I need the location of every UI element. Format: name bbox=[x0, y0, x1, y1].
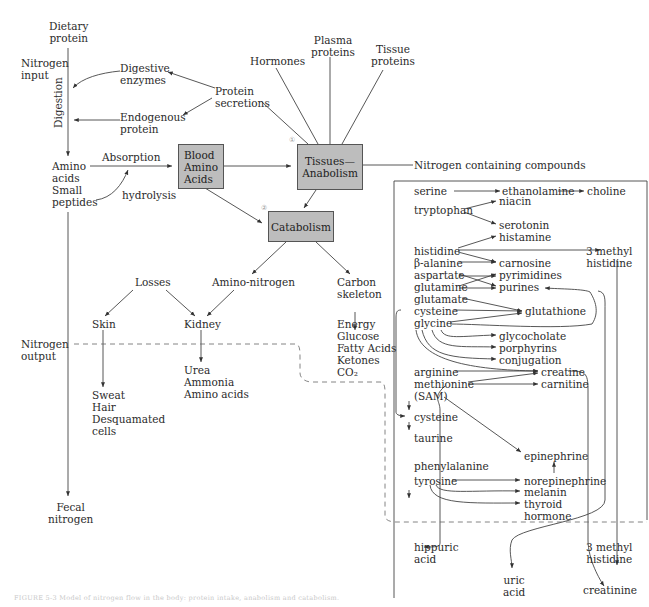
skin-losses-list: Sweat Hair Desquamated cells bbox=[92, 389, 165, 437]
aspartate: aspartate bbox=[414, 269, 465, 281]
skin-label: Skin bbox=[92, 318, 116, 330]
methionine: methionine bbox=[414, 378, 474, 390]
figure-caption: FIGURE 5-3 Model of nitrogen flow in the… bbox=[14, 594, 339, 602]
taurine: taurine bbox=[414, 432, 453, 444]
beta-alanine: β-alanine bbox=[414, 257, 463, 269]
catabolism-box: Catabolism bbox=[268, 211, 334, 242]
choline: choline bbox=[587, 185, 626, 197]
arginine: arginine bbox=[414, 366, 458, 378]
tissue-proteins-label: Tissue proteins bbox=[371, 43, 415, 67]
glutamine: glutamine bbox=[414, 281, 468, 293]
losses-to-skin bbox=[105, 290, 133, 316]
marker-2: ② bbox=[261, 204, 267, 212]
tryptophan: tryptophan bbox=[414, 204, 473, 216]
marker-1: ① bbox=[289, 136, 295, 144]
conjugation: conjugation bbox=[499, 354, 562, 366]
nitrogen-containing-compounds-label: Nitrogen containing compounds bbox=[414, 159, 586, 171]
histidine: histidine bbox=[414, 245, 460, 257]
creatine: creatine bbox=[541, 366, 585, 378]
protein-secretions-label: Protein secretions bbox=[215, 85, 270, 109]
fecal-nitrogen-label: Fecal nitrogen bbox=[48, 501, 93, 525]
glutathione: glutathione bbox=[525, 305, 586, 317]
hormones-label: Hormones bbox=[250, 55, 305, 67]
hormones-line bbox=[276, 68, 318, 144]
tissues-to-catabolism bbox=[304, 190, 316, 208]
porphyrins: porphyrins bbox=[499, 342, 557, 354]
methyl-histidine-bottom: 3 methyl histidine bbox=[586, 541, 632, 565]
pyrimidines: pyrimidines bbox=[499, 269, 562, 281]
serotonin: serotonin bbox=[499, 219, 549, 231]
amino-nitrogen-label: Amino-nitrogen bbox=[212, 276, 295, 288]
catabolism-to-carbon bbox=[316, 242, 350, 274]
hydrolysis-label: hydrolysis bbox=[122, 189, 176, 201]
tissue-proteins-line bbox=[342, 70, 383, 144]
glutamate: glutamate bbox=[414, 293, 468, 305]
niacin: niacin bbox=[499, 195, 531, 207]
blood-amino-acids-box: Blood Amino Acids bbox=[178, 144, 224, 189]
tissues-anabolism-box: Tissues— Anabolism bbox=[297, 144, 363, 190]
serine: serine bbox=[414, 185, 447, 197]
blood-to-catabolism bbox=[205, 188, 262, 223]
digestion-label: Digestion bbox=[52, 77, 64, 128]
kidney-label: Kidney bbox=[184, 318, 221, 330]
thyroid-hormone: thyroid hormone bbox=[524, 498, 571, 522]
carnosine: carnosine bbox=[499, 257, 551, 269]
nitrogen-metabolism-diagram: Dietary protein Nitrogen input Digestion… bbox=[0, 0, 649, 607]
endogenous-protein-label: Endogenous protein bbox=[120, 111, 186, 135]
cysteine-lower: cysteine bbox=[414, 411, 458, 423]
losses-label: Losses bbox=[135, 276, 171, 288]
histamine: histamine bbox=[499, 231, 551, 243]
uric-acid: uric acid bbox=[503, 574, 525, 598]
digestive-enzymes-arrow bbox=[73, 71, 120, 88]
energy-products-list: Energy Glucose Fatty Acids Ketones CO₂ bbox=[337, 318, 396, 378]
kidney-losses-list: Urea Ammonia Amino acids bbox=[184, 364, 249, 400]
secretions-to-endogenous bbox=[183, 98, 212, 115]
catabolism-to-amino-nitrogen bbox=[252, 242, 286, 274]
epinephrine: epinephrine bbox=[524, 450, 588, 462]
dietary-protein-label: Dietary protein bbox=[49, 20, 88, 44]
cysteine-upper: cysteine bbox=[414, 305, 458, 317]
glycocholate: glycocholate bbox=[499, 330, 566, 342]
phenylalanine: phenylalanine bbox=[414, 460, 489, 472]
amino-acids-small-peptides-label: Amino acids Small peptides bbox=[52, 160, 98, 208]
amino-nitrogen-to-kidney bbox=[207, 290, 234, 316]
absorption-label: Absorption bbox=[102, 151, 160, 163]
plasma-proteins-label: Plasma proteins bbox=[311, 34, 355, 58]
tyrosine: tyrosine bbox=[414, 475, 457, 487]
secretions-to-enzymes bbox=[168, 72, 215, 88]
melanin: melanin bbox=[524, 486, 567, 498]
creatinine: creatinine bbox=[583, 584, 637, 596]
hippuric-acid: hippuric acid bbox=[414, 541, 459, 565]
glycine: glycine bbox=[414, 317, 452, 329]
digestive-enzymes-label: Digestive enzymes bbox=[120, 62, 170, 86]
purines: purines bbox=[499, 281, 539, 293]
carbon-skeleton-label: Carbon skeleton bbox=[337, 276, 382, 300]
methyl-histidine-top: 3 methyl histidine bbox=[586, 245, 632, 269]
losses-to-kidney bbox=[166, 290, 195, 316]
carnitine: carnitine bbox=[541, 378, 589, 390]
sam: (SAM) bbox=[414, 390, 448, 402]
nitrogen-output-label: Nitrogen output bbox=[21, 338, 69, 362]
